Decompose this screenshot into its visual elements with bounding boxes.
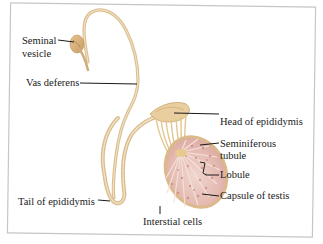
anatomy-diagram: Seminal vesicle Vas deferens Head of epi… [0,0,323,244]
label-vas-deferens: Vas deferens [26,77,79,88]
label-tail-of-epididymis: Tail of epididymis [18,196,95,207]
label-head-of-epididymis: Head of epididymis [220,116,303,127]
label-seminal-vesicle-line1: Seminal [22,35,56,46]
label-capsule-of-testis: Capsule of testis [220,190,289,201]
label-lobule: Lobule [220,169,250,180]
label-seminiferous-line1: Seminiferous [220,138,276,149]
label-seminiferous-line2: tubule [220,150,247,161]
label-interstitial-cells: Interstial cells [143,216,202,227]
label-seminal-vesicle-line2: vesicle [22,48,51,59]
rete-testis [175,149,187,157]
